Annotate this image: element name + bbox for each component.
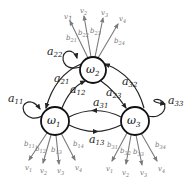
emission-prob-label: b31 xyxy=(107,141,118,150)
transition-arrow-a31 xyxy=(69,111,121,118)
emission-symbol-label: v2 xyxy=(40,167,47,176)
emission-symbol-label: v3 xyxy=(101,9,108,18)
emission-prob-label: b21 xyxy=(66,34,77,43)
label-a22: a22 xyxy=(47,45,63,59)
emissions-w3: b31 b32 b33 b34 v1 v2 v3 v4 xyxy=(106,133,166,178)
emission-symbol-label: v1 xyxy=(106,165,113,174)
label-a23: a23 xyxy=(106,86,122,100)
emissions-w2: v1 v2 v3 v4 b21 b22 b23 b24 xyxy=(64,7,126,58)
emission-prob-label: b24 xyxy=(114,37,125,46)
label-a33: a33 xyxy=(168,94,184,108)
emission-symbol-label: v4 xyxy=(75,164,82,173)
emission-symbol-label: v3 xyxy=(140,169,147,178)
self-loop-a11 xyxy=(23,102,42,118)
emission-prob-label: b12 xyxy=(35,145,46,154)
emission-symbol-label: v1 xyxy=(64,13,72,23)
state-w3: ω3 xyxy=(121,107,149,135)
emission-prob-label: b34 xyxy=(155,141,166,150)
emission-symbol-label: v2 xyxy=(80,7,87,16)
state-w2: ω2 xyxy=(80,57,106,83)
label-a13: a13 xyxy=(89,133,105,147)
emission-symbol-label: v1 xyxy=(25,164,32,173)
emission-symbol-label: v3 xyxy=(57,167,64,176)
emission-prob-label: b13 xyxy=(51,146,62,155)
self-loop-a33 xyxy=(148,99,165,116)
emission-prob-label: b14 xyxy=(73,140,84,149)
label-a32: a32 xyxy=(122,75,138,89)
hmm-diagram: v1 v2 v3 v4 b21 b22 b23 b24 b11 b12 b13 … xyxy=(0,0,192,187)
emission-symbol-label: v2 xyxy=(122,169,129,178)
emissions-w1: b11 b12 b13 b14 v1 v2 v3 v4 xyxy=(24,133,84,176)
emission-prob-label: b23 xyxy=(90,27,101,36)
emission-prob-label: b11 xyxy=(24,140,35,149)
emission-prob-label: b22 xyxy=(78,29,89,38)
label-a21: a21 xyxy=(54,72,69,86)
emission-symbol-label: v4 xyxy=(158,165,165,174)
emission-symbol-label: v4 xyxy=(119,15,126,24)
state-w1: ω1 xyxy=(41,107,69,135)
label-a11: a11 xyxy=(8,92,23,106)
transition-arrow-a13 xyxy=(69,125,121,132)
